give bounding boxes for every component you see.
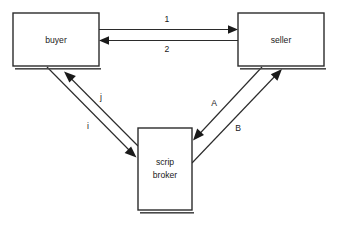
edge-i-label: i <box>87 121 89 131</box>
edge-j-label: j <box>99 92 102 102</box>
diagram-svg: buyer seller scrip broker 1 2 i j A B <box>0 0 340 225</box>
node-buyer-label: buyer <box>45 35 67 45</box>
edge-i-arrowhead-icon <box>125 147 137 158</box>
edge-b-label: B <box>235 123 241 133</box>
node-scrip-broker-box <box>138 128 192 210</box>
node-scrip-broker-shadow <box>140 212 194 214</box>
node-buyer[interactable]: buyer <box>13 13 101 70</box>
edge-i-line <box>47 67 132 153</box>
edge-a <box>193 67 262 141</box>
edge-j <box>64 72 138 147</box>
node-seller[interactable]: seller <box>238 13 326 70</box>
node-seller-shadow <box>240 68 326 70</box>
edge-a-line <box>198 67 262 136</box>
node-scrip-broker-label-line1: scrip <box>156 157 174 167</box>
node-seller-label: seller <box>271 35 292 45</box>
edge-j-line <box>69 77 138 147</box>
node-scrip-broker[interactable]: scrip broker <box>138 128 194 214</box>
diagram-canvas: buyer seller scrip broker 1 2 i j A B <box>0 0 340 225</box>
node-buyer-shadow <box>15 68 101 70</box>
edge-1-label: 1 <box>165 14 170 24</box>
edge-2-arrowhead-icon <box>99 36 109 44</box>
edge-b <box>192 69 282 163</box>
edge-1 <box>99 25 238 33</box>
edge-b-line <box>192 74 277 163</box>
edge-a-label: A <box>211 98 217 108</box>
edge-2-label: 2 <box>165 44 170 54</box>
edge-1-arrowhead-icon <box>228 25 238 33</box>
edge-i <box>47 67 137 158</box>
node-scrip-broker-label-line2: broker <box>153 170 177 180</box>
